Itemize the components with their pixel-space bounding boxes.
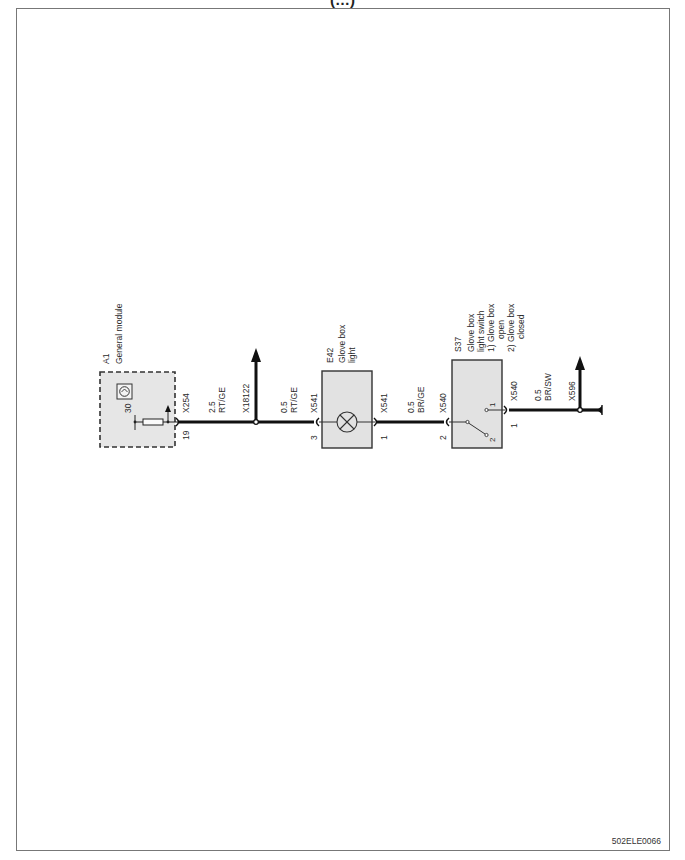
s37-state2-line1: 2) Glove box xyxy=(506,303,516,352)
s37-state2-line2: closed xyxy=(516,314,526,339)
ground-icon xyxy=(597,405,602,415)
wire-w2-gauge: 0.5 xyxy=(279,401,289,413)
connector-x540-in[interactable]: X540 2 xyxy=(438,393,449,440)
connector-x254-label: X254 xyxy=(181,393,191,413)
arrow-up-icon xyxy=(251,348,261,362)
contact-1-label: 1 xyxy=(488,402,497,407)
a1-ref-label: A1 xyxy=(101,353,111,364)
pin-1-label: 1 xyxy=(379,435,389,440)
pin-19-label: 19 xyxy=(181,430,191,440)
arrow-up-icon xyxy=(575,356,585,370)
wire-w4-gauge: 0.5 xyxy=(533,389,543,401)
splice-x596-label: X596 xyxy=(567,381,577,401)
e42-ref-label: E42 xyxy=(325,348,335,363)
connector-x254[interactable]: X254 19 xyxy=(176,393,191,440)
e42-name-line1: Glove box xyxy=(337,324,347,363)
connector-x540-out-label: X540 xyxy=(509,381,519,401)
connector-x541-out-label: X541 xyxy=(379,393,389,413)
wire-w2-color: RT/GE xyxy=(289,387,299,413)
connector-x540-out[interactable]: X540 1 xyxy=(504,381,519,428)
s37-state1-line1: 1) Glove box xyxy=(486,303,496,352)
splice-x18122-label: X18122 xyxy=(241,383,251,413)
connector-icon xyxy=(317,418,320,426)
wire-w3-gauge: 0.5 xyxy=(406,401,416,413)
splice-x18122[interactable]: X18122 xyxy=(241,348,261,424)
wire-w1-gauge: 2.5 xyxy=(207,401,217,413)
pin-3-label: 3 xyxy=(309,435,319,440)
splice-x596[interactable]: X596 xyxy=(567,356,602,415)
e42-name-line2: light xyxy=(347,347,357,363)
wiring-diagram: 30 A1 General module X254 19 2.5 RT/GE X… xyxy=(0,0,685,860)
connector-x541-in[interactable]: X541 3 xyxy=(309,393,319,440)
control-module-icon xyxy=(117,384,132,399)
a1-pin-30-label: 30 xyxy=(123,403,133,413)
contact-2-label: 2 xyxy=(488,437,497,442)
a1-name-label: General module xyxy=(114,303,124,364)
s37-ref-label: S37 xyxy=(453,337,463,352)
connector-x540-in-label: X540 xyxy=(438,393,448,413)
connector-x541-out[interactable]: X541 1 xyxy=(374,393,389,440)
s37-state1-line2: open xyxy=(496,320,506,339)
pin-1-out-label: 1 xyxy=(509,423,519,428)
wire-w3-color: BR/GE xyxy=(416,386,426,413)
component-e42[interactable]: E42 Glove box light xyxy=(319,324,375,448)
pin-2-label: 2 xyxy=(438,435,448,440)
s37-name-line2: light switch xyxy=(476,310,486,352)
s37-name-line1: Glove box xyxy=(466,313,476,352)
component-a1[interactable]: 30 A1 General module xyxy=(100,303,178,447)
wire-w4-color: BR/SW xyxy=(543,373,553,401)
wire-w2[interactable]: 0.5 RT/GE xyxy=(258,387,314,422)
wire-w1-color: RT/GE xyxy=(217,387,227,413)
connector-icon xyxy=(447,418,450,426)
document-id: 502ELE0066 xyxy=(612,836,661,846)
connector-x541-in-label: X541 xyxy=(309,393,319,413)
